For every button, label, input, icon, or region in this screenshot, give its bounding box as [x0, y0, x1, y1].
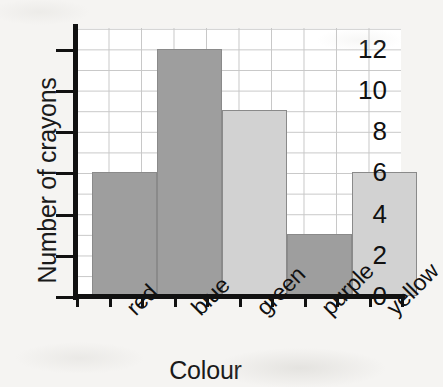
- plot-area: [76, 28, 401, 296]
- y-axis-line: [73, 24, 78, 300]
- bar-green: [222, 110, 287, 296]
- y-tick-label-6: 6: [373, 159, 387, 185]
- y-axis-title: Number of crayons: [33, 46, 62, 316]
- y-tick-label-4: 4: [373, 201, 387, 227]
- x-axis-title: Colour: [0, 356, 411, 385]
- y-tick-label-10: 10: [358, 77, 387, 103]
- x-axis-line: [73, 294, 405, 299]
- bar-blue: [157, 49, 222, 296]
- y-tick-label-2: 2: [373, 242, 387, 268]
- y-tick-label-8: 8: [373, 118, 387, 144]
- y-tick-label-12: 12: [358, 36, 387, 62]
- bar-red: [92, 172, 157, 296]
